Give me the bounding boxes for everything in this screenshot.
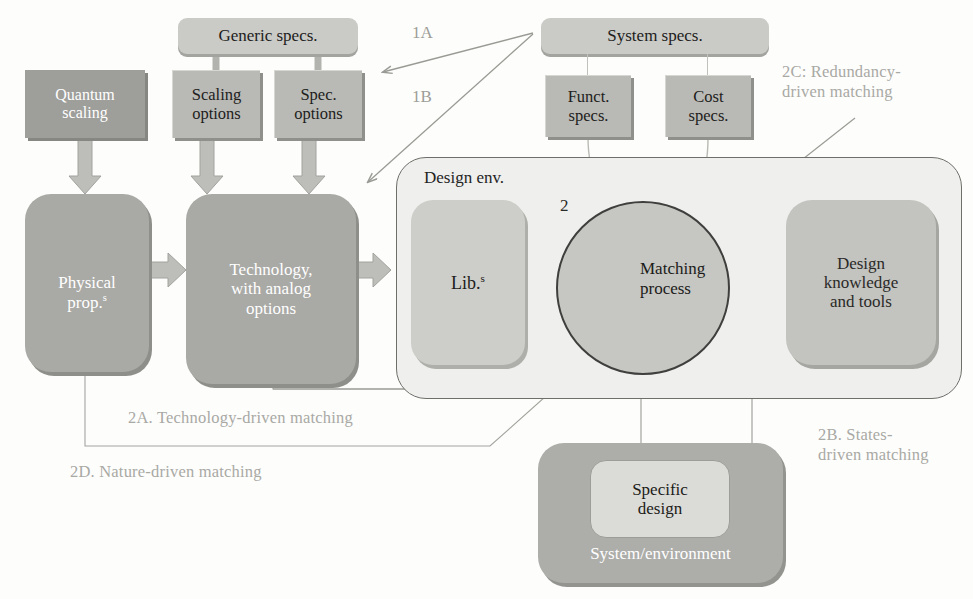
node-design-knowledge[interactable]: Design knowledge and tools bbox=[786, 200, 936, 365]
node-funct-specs-label: Funct. specs. bbox=[568, 88, 610, 125]
node-generic-specs-label: Generic specs. bbox=[218, 26, 317, 45]
node-quantum-scaling[interactable]: Quantum scaling bbox=[25, 70, 145, 138]
node-libraries-superscript: s bbox=[481, 272, 485, 284]
node-cost-specs-label: Cost specs. bbox=[689, 88, 729, 125]
node-scaling-options[interactable]: Scaling options bbox=[172, 70, 260, 138]
diagram-canvas: Design env. Quantum scaling Generic spec… bbox=[0, 0, 973, 599]
node-libraries[interactable]: Lib.s bbox=[411, 200, 525, 365]
node-design-knowledge-label: Design knowledge and tools bbox=[824, 254, 899, 311]
node-system-specs[interactable]: System specs. bbox=[541, 18, 769, 54]
annotation-2: 2 bbox=[560, 196, 569, 216]
node-physical-prop[interactable]: Physical prop.s bbox=[25, 194, 149, 372]
stem-system-to-cost bbox=[707, 54, 708, 75]
node-cost-specs[interactable]: Cost specs. bbox=[665, 75, 751, 137]
arrow-1A bbox=[383, 33, 533, 72]
node-matching-process-label: Matching process bbox=[640, 259, 790, 298]
node-technology-label: Technology, with analog options bbox=[229, 260, 312, 317]
node-spec-options-label: Spec. options bbox=[294, 86, 343, 123]
node-system-specs-label: System specs. bbox=[607, 26, 702, 45]
annotation-1A: 1A bbox=[412, 23, 433, 43]
node-physical-prop-text: Physical prop. bbox=[58, 273, 116, 312]
design-env-label: Design env. bbox=[424, 168, 504, 188]
node-generic-specs[interactable]: Generic specs. bbox=[178, 18, 358, 54]
node-funct-specs[interactable]: Funct. specs. bbox=[545, 75, 631, 137]
annotation-2A: 2A. Technology-driven matching bbox=[128, 408, 468, 428]
node-spec-options[interactable]: Spec. options bbox=[274, 70, 362, 138]
node-quantum-scaling-label: Quantum scaling bbox=[55, 86, 115, 122]
node-specific-design-label: Specific design bbox=[632, 480, 688, 518]
node-physical-prop-label: Physical prop.s bbox=[58, 254, 116, 312]
annotation-2B: 2B. States- driven matching bbox=[818, 425, 973, 465]
node-system-environment-label: System/environment bbox=[538, 544, 783, 564]
annotation-2C: 2C: Redundancy- driven matching bbox=[782, 62, 962, 102]
down-block-arrows bbox=[69, 138, 325, 194]
node-libraries-text: Lib. bbox=[451, 273, 481, 293]
node-technology[interactable]: Technology, with analog options bbox=[186, 194, 356, 384]
node-specific-design[interactable]: Specific design bbox=[590, 460, 730, 538]
node-physical-prop-superscript: s bbox=[103, 292, 107, 303]
annotation-2D: 2D. Nature-driven matching bbox=[70, 462, 410, 482]
node-libraries-label: Lib.s bbox=[451, 272, 485, 293]
stem-system-to-funct bbox=[587, 54, 588, 75]
annotation-1B: 1B bbox=[412, 87, 432, 107]
node-scaling-options-label: Scaling options bbox=[192, 86, 242, 123]
